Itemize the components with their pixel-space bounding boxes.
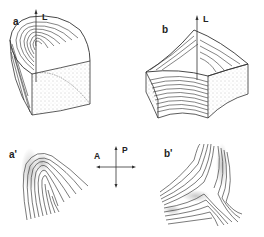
orientation-compass [96,146,136,188]
panel-a-label: a [13,16,19,27]
panel-b-label: b [162,24,168,35]
compass-label-posterior: P [122,145,128,155]
panel-a-block [10,16,90,115]
axis-label-b: L [203,14,209,24]
panel-a-prime-lines [21,148,88,220]
panel-a-prime-label: a' [9,149,17,160]
compass-label-anterior: A [94,151,100,161]
axis-label-a: L [42,12,48,22]
panel-b-prime-label: b' [164,148,173,159]
